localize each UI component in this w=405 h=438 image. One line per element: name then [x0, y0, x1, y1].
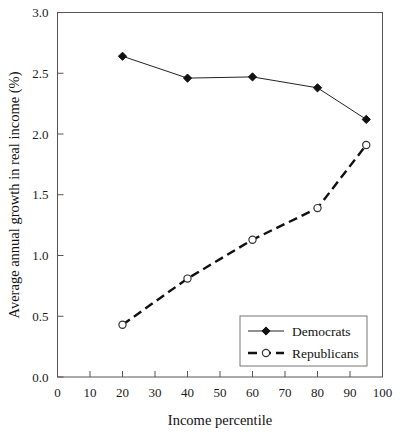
x-tick-label: 80 — [311, 385, 324, 400]
data-point-republicans — [314, 205, 321, 212]
chart-figure: 0.00.51.01.52.02.53.0 010203040506070809… — [0, 0, 405, 438]
legend-swatch-marker-republicans — [262, 349, 269, 356]
x-tick-label: 30 — [149, 385, 162, 400]
data-point-republicans — [249, 236, 256, 243]
y-tick-label: 0.0 — [32, 370, 48, 385]
y-tick-label: 3.0 — [32, 5, 48, 20]
x-tick-label: 50 — [214, 385, 227, 400]
legend-label-democrats[interactable]: Democrats — [292, 324, 350, 339]
chart-legend[interactable]: DemocratsRepublicans — [240, 316, 367, 366]
y-tick-label: 1.0 — [32, 248, 48, 263]
data-point-republicans — [363, 141, 370, 148]
x-axis-title: Income percentile — [168, 412, 272, 428]
x-tick-label: 20 — [116, 385, 129, 400]
x-tick-label: 10 — [84, 385, 97, 400]
data-point-republicans — [184, 275, 191, 282]
line-chart: 0.00.51.01.52.02.53.0 010203040506070809… — [0, 0, 405, 438]
y-tick-label: 2.5 — [32, 66, 48, 81]
y-tick-label: 0.5 — [32, 309, 48, 324]
legend-label-republicans[interactable]: Republicans — [292, 346, 359, 361]
x-tick-label: 70 — [279, 385, 292, 400]
y-tick-label: 1.5 — [32, 187, 48, 202]
x-tick-label: 90 — [344, 385, 357, 400]
x-tick-label: 40 — [181, 385, 194, 400]
x-tick-label: 60 — [246, 385, 259, 400]
x-tick-label: 100 — [373, 385, 393, 400]
data-point-republicans — [119, 321, 126, 328]
chart-background — [0, 0, 405, 438]
y-axis-title: Average annual growth in real income (%) — [6, 71, 23, 318]
x-tick-label: 0 — [54, 385, 61, 400]
y-tick-label: 2.0 — [32, 127, 48, 142]
